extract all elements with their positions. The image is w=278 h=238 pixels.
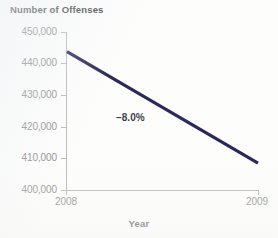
offenses-trend-line (67, 52, 258, 164)
chart-container: Number of Offenses 450,000 440,000 430,0… (0, 0, 278, 238)
percent-change-annotation: –8.0% (116, 112, 145, 123)
x-axis-title: Year (0, 218, 278, 229)
